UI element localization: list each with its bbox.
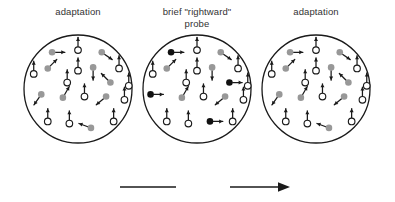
dot-marker-open — [64, 79, 71, 86]
dot-marker-gray — [345, 79, 352, 86]
dot-marker-open — [30, 71, 37, 78]
dot-marker-open — [354, 65, 361, 72]
dot-marker-gray — [90, 64, 97, 71]
dot-marker-open — [194, 47, 201, 54]
dot-marker-open — [363, 82, 370, 89]
time-arrow-icon — [118, 176, 290, 198]
dot-marker-gray — [328, 64, 335, 71]
dot-marker-gray — [276, 91, 283, 98]
dot-marker-gray — [217, 49, 224, 56]
dot-marker-open — [66, 120, 73, 127]
dot-aperture-adaptation-right — [260, 32, 372, 146]
dot-marker-gray — [163, 65, 170, 72]
dot-marker-gray — [282, 65, 289, 72]
dot-marker-black — [226, 79, 233, 86]
dot-marker-gray — [49, 49, 56, 56]
dot-marker-gray — [326, 125, 333, 132]
dot-marker-black — [207, 118, 214, 125]
dot-marker-gray — [38, 91, 45, 98]
dot-marker-open — [121, 97, 128, 104]
dot-marker-open — [313, 47, 320, 54]
panel-label-adaptation-left: adaptation — [12, 6, 144, 18]
dot-marker-gray — [287, 49, 294, 56]
time-axis: time — [118, 176, 290, 198]
dot-marker-gray — [336, 49, 343, 56]
dot-marker-gray — [107, 79, 114, 86]
dot-marker-open — [304, 120, 311, 127]
dot-marker-gray — [103, 93, 110, 100]
aperture-svg-right — [260, 32, 372, 146]
stimulus-panel-adaptation-right: adaptation — [250, 0, 382, 170]
dot-marker-gray — [60, 94, 67, 101]
dot-marker-open — [348, 118, 355, 125]
dot-marker-gray — [341, 93, 348, 100]
dot-marker-open — [183, 79, 190, 86]
dot-marker-open — [313, 67, 320, 74]
dot-marker-open — [44, 118, 51, 125]
dot-marker-open — [75, 67, 82, 74]
dot-marker-gray — [44, 65, 51, 72]
stimulus-panel-adaptation-left: adaptation — [12, 0, 144, 170]
aperture-svg-left — [22, 32, 134, 146]
panel-label-probe-middle: brief "rightward" probe — [131, 6, 263, 30]
stimulus-panel-probe-middle: brief "rightward" probe — [131, 0, 263, 170]
dot-marker-open — [163, 118, 170, 125]
dot-marker-open — [319, 93, 326, 100]
dot-marker-gray — [222, 93, 229, 100]
figure-canvas: adaptation brief "rightward" probe adapt… — [0, 0, 395, 202]
dot-marker-open — [110, 118, 117, 125]
dot-marker-open — [282, 118, 289, 125]
dot-marker-gray — [88, 125, 95, 132]
dot-marker-open — [200, 93, 207, 100]
dot-aperture-probe-middle — [141, 32, 253, 146]
dot-marker-gray — [98, 49, 105, 56]
dot-marker-open — [235, 65, 242, 72]
dot-marker-open — [81, 93, 88, 100]
dot-marker-gray — [209, 64, 216, 71]
dot-marker-black — [147, 91, 154, 98]
dot-marker-open — [149, 71, 156, 78]
dot-marker-open — [116, 65, 123, 72]
dot-marker-open — [194, 67, 201, 74]
dot-marker-open — [302, 79, 309, 86]
dot-marker-gray — [298, 94, 305, 101]
dot-marker-open — [229, 118, 236, 125]
dot-aperture-adaptation-left — [22, 32, 134, 146]
dot-marker-open — [359, 97, 366, 104]
dot-marker-black — [168, 49, 175, 56]
dot-marker-open — [185, 120, 192, 127]
aperture-svg-middle — [141, 32, 253, 146]
dot-marker-open — [240, 97, 247, 104]
dot-marker-open — [268, 71, 275, 78]
dot-marker-gray — [179, 94, 186, 101]
panel-label-adaptation-right: adaptation — [250, 6, 382, 18]
dot-marker-open — [75, 47, 82, 54]
